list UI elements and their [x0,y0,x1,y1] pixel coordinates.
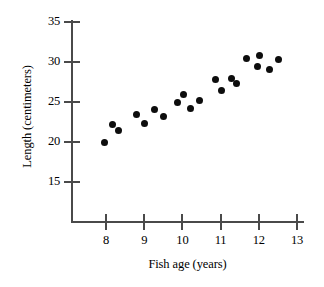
x-tick-13 [296,214,298,230]
x-tick-label-8: 8 [93,234,119,247]
x-tick-11 [220,214,222,230]
y-tick-label-slot: 15 [32,175,60,188]
y-tick-35 [64,21,80,23]
data-point [160,113,167,120]
data-point [141,120,148,127]
x-tick-9 [143,214,145,230]
y-tick-label-25: 25 [34,95,60,108]
x-tick-label-9: 9 [131,234,157,247]
x-tick-label-11: 11 [208,234,234,247]
x-tick-label-10: 10 [169,234,195,247]
y-tick-label-slot: 30 [32,55,60,68]
x-tick-label-12: 12 [246,234,272,247]
scatter-chart: 1520253035 8910111213 Length (centimeter… [0,0,324,287]
data-point [133,111,140,118]
y-tick-15 [64,181,80,183]
y-tick-30 [64,61,80,63]
y-tick-label-35: 35 [34,15,60,28]
data-point [266,66,273,73]
data-point [180,91,187,98]
x-axis-title: Fish age (years) [71,258,304,271]
data-point [243,55,250,62]
x-tick-label-13: 13 [284,234,310,247]
data-point [151,106,158,113]
data-point [196,97,203,104]
y-axis-line [71,20,73,223]
data-point [218,87,225,94]
y-tick-label-slot: 35 [32,15,60,28]
y-tick-label-slot: 25 [32,95,60,108]
x-tick-10 [181,214,183,230]
y-axis-title: Length (centimeters) [21,27,34,207]
data-point [187,105,194,112]
y-tick-label-15: 15 [34,175,60,188]
data-point [233,80,240,87]
y-tick-20 [64,141,80,143]
data-point [101,139,108,146]
y-tick-label-20: 20 [34,135,60,148]
y-tick-label-slot: 20 [32,135,60,148]
data-point [212,76,219,83]
data-point [275,56,282,63]
y-tick-label-30: 30 [34,55,60,68]
x-tick-12 [258,214,260,230]
data-point [115,127,122,134]
data-point [174,99,181,106]
x-tick-8 [105,214,107,230]
data-point [254,63,261,70]
y-tick-25 [64,101,80,103]
data-point [256,52,263,59]
